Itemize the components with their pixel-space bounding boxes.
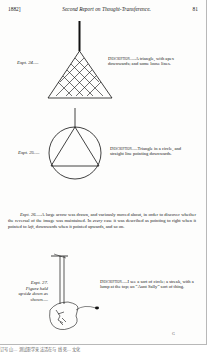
running-header: 1882] Second Report on Thought-Transfere… — [8, 6, 198, 12]
header-year: 1882] — [8, 6, 21, 12]
expt-26-paragraph: Expt. 26.—A large arrow was drawn, and v… — [8, 212, 196, 229]
expt-25-label: Expt. 25.— — [18, 150, 39, 156]
expt-25-description: Description.—Triangle in a circle, and s… — [110, 146, 196, 157]
header-title: Second Report on Thought-Transference. — [62, 6, 151, 12]
signature-mark: G — [172, 331, 175, 336]
expt-24-description: Description.—A triangle, with apex downw… — [108, 56, 194, 67]
expt-24-label: Expt. 24.— — [17, 60, 38, 66]
header-page-number: 81 — [193, 6, 198, 12]
footer-caption: 订号 山… 测试影学来 法活在与 线 死… 文化 — [0, 346, 211, 352]
figure-expt-27 — [46, 252, 102, 332]
expt-27-description: Description.—I see a sort of circle; a s… — [100, 279, 196, 290]
figure-expt-25 — [44, 108, 106, 198]
expt-27-label: Expt. 27. Figure held upside down as sho… — [18, 280, 48, 302]
document-page: 1882] Second Report on Thought-Transfere… — [0, 0, 207, 345]
